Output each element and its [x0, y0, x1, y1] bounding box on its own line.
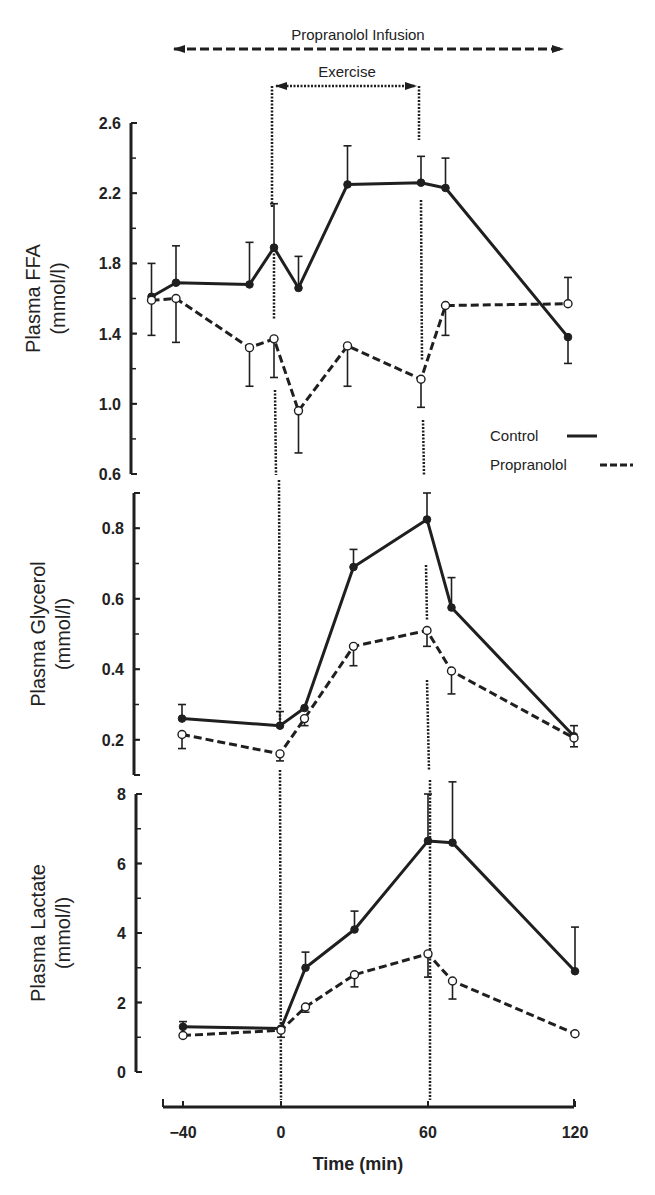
data-point-propranolol	[448, 667, 456, 675]
data-point-control	[350, 563, 358, 571]
y-tick-label: 1.8	[99, 255, 121, 272]
exercise-annotation: Exercise	[276, 63, 416, 86]
data-point-propranolol	[302, 1003, 310, 1011]
exercise-start-line	[279, 480, 280, 720]
exercise-start-line	[280, 770, 281, 1100]
data-point-propranolol	[417, 375, 425, 383]
y-tick-label: 1.4	[99, 326, 121, 343]
data-point-propranolol	[344, 342, 352, 350]
data-point-propranolol	[277, 1026, 285, 1034]
exercise-end-line	[426, 565, 427, 620]
data-point-propranolol	[570, 734, 578, 742]
exercise-end-line	[421, 200, 422, 360]
data-point-control	[449, 839, 457, 847]
data-point-control	[172, 279, 180, 287]
series-line-control	[183, 841, 575, 1029]
data-point-control	[417, 179, 425, 187]
data-point-propranolol	[442, 302, 450, 310]
y-tick-label: 0.4	[102, 661, 124, 678]
data-point-control	[448, 604, 456, 612]
y-tick-label: 0.6	[102, 591, 124, 608]
data-point-control	[179, 1023, 187, 1031]
y-tick-label: 0	[117, 1064, 126, 1081]
data-point-control	[442, 184, 450, 192]
legend-propranolol-label: Propranolol	[490, 456, 567, 473]
figure-canvas: Propranolol Infusion Exercise 0.61.01.41…	[0, 0, 655, 1195]
data-point-control	[424, 837, 432, 845]
data-point-propranolol	[301, 715, 309, 723]
y-tick-label: 1.0	[99, 396, 121, 413]
data-point-propranolol	[350, 642, 358, 650]
panel-glycerol: 0.20.40.60.8Plasma Glycerol(mmol/l)	[27, 493, 578, 775]
y-tick-label: 0.2	[102, 732, 124, 749]
y-tick-label: 0.6	[99, 466, 121, 483]
data-point-propranolol	[172, 295, 180, 303]
data-point-propranolol	[351, 971, 359, 979]
data-point-control	[246, 281, 254, 289]
legend: Control Propranolol	[490, 427, 633, 473]
y-tick-label: 2	[117, 995, 126, 1012]
data-point-control	[571, 967, 579, 975]
data-point-propranolol	[270, 335, 278, 343]
data-point-propranolol	[148, 296, 156, 304]
y-axis-title: Plasma FFA	[22, 243, 44, 353]
exercise-boundaries	[272, 86, 430, 1100]
data-point-propranolol	[179, 1032, 187, 1040]
data-point-propranolol	[449, 977, 457, 985]
y-axis-unit: (mmol/l)	[52, 897, 74, 969]
series-line-propranolol	[182, 630, 574, 753]
data-point-control	[351, 926, 359, 934]
y-axis-unit: (mmol/l)	[52, 598, 74, 670]
y-tick-label: 2.6	[99, 115, 121, 132]
data-point-control	[564, 333, 572, 341]
x-axis: Time (min) −40060120	[163, 1099, 588, 1174]
data-point-propranolol	[424, 950, 432, 958]
data-point-propranolol	[178, 730, 186, 738]
x-axis-title: Time (min)	[313, 1154, 404, 1174]
exercise-end-line	[427, 680, 429, 770]
data-point-propranolol	[295, 407, 303, 415]
data-point-control	[295, 284, 303, 292]
data-point-propranolol	[571, 1030, 579, 1038]
data-point-propranolol	[564, 300, 572, 308]
y-tick-label: 2.2	[99, 185, 121, 202]
y-axis-unit: (mmol/l)	[47, 262, 69, 334]
x-tick-label: 60	[419, 1124, 437, 1141]
y-tick-label: 0.8	[102, 520, 124, 537]
x-tick-label: −40	[169, 1124, 196, 1141]
y-tick-label: 4	[117, 925, 126, 942]
data-point-control	[178, 715, 186, 723]
data-point-control	[344, 181, 352, 189]
y-tick-label: 6	[117, 856, 126, 873]
panel-lactate: 02468Plasma Lactate(mmol/l)	[27, 782, 579, 1081]
y-axis-title: Plasma Glycerol	[27, 561, 49, 707]
propranolol-infusion-annotation: Propranolol Infusion	[174, 26, 563, 49]
x-tick-label: 0	[277, 1124, 286, 1141]
exercise-label: Exercise	[318, 63, 376, 80]
data-point-control	[302, 964, 310, 972]
series-line-propranolol	[183, 954, 575, 1036]
legend-control-label: Control	[490, 427, 538, 444]
data-point-propranolol	[423, 626, 431, 634]
series-line-control	[182, 519, 574, 736]
data-point-propranolol	[246, 344, 254, 352]
x-tick-label: 120	[562, 1124, 589, 1141]
data-point-control	[301, 704, 309, 712]
data-point-control	[276, 722, 284, 730]
series-line-control	[152, 183, 569, 337]
data-point-control	[270, 244, 278, 252]
exercise-start-line	[275, 390, 276, 475]
data-point-propranolol	[276, 750, 284, 758]
propranolol-infusion-label: Propranolol Infusion	[291, 26, 424, 43]
y-tick-label: 8	[117, 786, 126, 803]
y-axis-title: Plasma Lactate	[27, 864, 49, 1002]
series-line-propranolol	[152, 299, 569, 411]
data-point-control	[423, 516, 431, 524]
exercise-end-line	[423, 420, 424, 475]
